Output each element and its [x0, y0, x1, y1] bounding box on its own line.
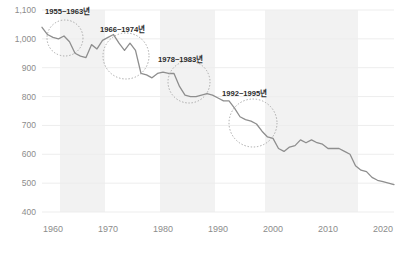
y-tick-label: 600	[22, 149, 36, 159]
shaded-band	[310, 10, 358, 212]
y-tick-label: 800	[22, 92, 36, 102]
y-tick-label: 400	[22, 207, 36, 217]
x-tick-label: 2020	[373, 224, 393, 234]
y-tick-label: 1,000	[15, 34, 37, 44]
y-tick-label: 900	[22, 63, 36, 73]
line-chart: 4005006007008009001,0001,100 19601970198…	[0, 0, 401, 254]
highlight-annotation-label: 1966~1974년	[100, 24, 145, 34]
x-tick-label: 2010	[318, 224, 338, 234]
x-tick-label: 1990	[208, 224, 228, 234]
x-tick-label: 2000	[263, 224, 283, 234]
x-tick-label: 1960	[43, 224, 63, 234]
highlight-annotation-label: 1992~1995년	[222, 88, 267, 98]
chart-container: 4005006007008009001,0001,100 19601970198…	[0, 0, 401, 254]
x-tick-label: 1970	[98, 224, 118, 234]
shaded-band	[60, 10, 105, 212]
y-tick-label: 700	[22, 120, 36, 130]
highlight-annotation-label: 1955~1963년	[45, 6, 90, 16]
shaded-bands-layer	[60, 10, 358, 212]
x-tick-label: 1980	[153, 224, 173, 234]
shaded-band	[160, 10, 215, 212]
y-tick-label: 500	[22, 178, 36, 188]
highlight-annotation-label: 1978~1983년	[158, 54, 203, 64]
y-tick-label: 1,100	[15, 5, 37, 15]
